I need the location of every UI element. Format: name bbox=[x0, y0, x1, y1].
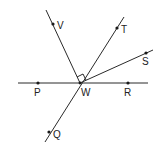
point-V bbox=[51, 22, 54, 25]
angle-diagram: V T S P W R Q bbox=[0, 0, 157, 142]
point-S bbox=[144, 51, 147, 54]
point-T bbox=[115, 26, 118, 29]
point-R bbox=[126, 81, 129, 84]
label-W: W bbox=[81, 87, 91, 98]
label-S: S bbox=[142, 56, 149, 67]
point-Q bbox=[47, 130, 50, 133]
label-P: P bbox=[34, 87, 41, 98]
line-TQ bbox=[45, 17, 124, 142]
label-R: R bbox=[124, 87, 131, 98]
point-P bbox=[36, 81, 39, 84]
point-W bbox=[79, 82, 82, 85]
label-V: V bbox=[57, 20, 64, 31]
label-Q: Q bbox=[53, 129, 61, 140]
label-T: T bbox=[121, 24, 127, 35]
